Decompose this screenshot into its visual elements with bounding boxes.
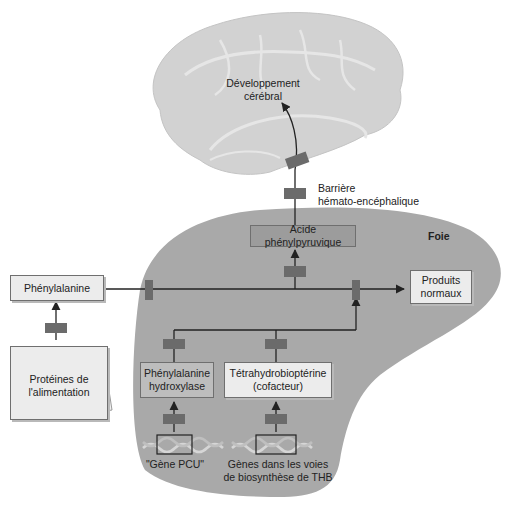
phenylalanine-box: Phénylalanine (10, 275, 104, 301)
phenylpyruvic-acid-box: Acide phénylpyruvique (250, 225, 356, 247)
phenylalanine-hydroxylase-box: Phénylalanine hydroxylase (140, 362, 214, 398)
normal-products-box: Produits normaux (410, 270, 472, 304)
liver-label: Foie (428, 230, 450, 243)
pku-gene-label: "Gène PCU" (140, 458, 210, 471)
thb-genes-label: Gènes dans les voies de biosynthèse de T… (216, 458, 340, 484)
tetrahydrobiopterin-box: Tétrahydrobioptérine (cofacteur) (224, 362, 332, 398)
dietary-proteins-box: Protéines de l'alimentation (10, 346, 108, 420)
blood-brain-barrier-label: Barrière hémato-encéphalique (318, 182, 419, 208)
brain-development-label: Développement cérébral (218, 77, 308, 103)
